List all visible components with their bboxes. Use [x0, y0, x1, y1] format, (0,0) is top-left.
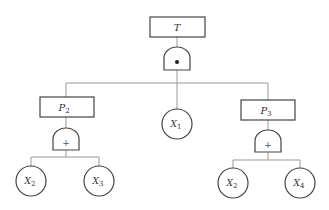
- fault-tree-diagram: T P2 + X2 X3 X1 P3 + X2 X4: [0, 0, 329, 210]
- or-gate-icon: +: [53, 128, 79, 150]
- top-event-T: T: [150, 17, 205, 37]
- intermediate-event-P3: P3: [241, 100, 295, 120]
- basic-event-X2-left: X2: [16, 166, 46, 196]
- svg-text:+: +: [62, 138, 70, 148]
- basic-event-X1: X1: [162, 109, 192, 139]
- basic-event-X3: X3: [84, 166, 114, 196]
- intermediate-event-P2: P2: [40, 97, 94, 117]
- or-gate-icon: +: [255, 130, 281, 152]
- and-gate-icon: [164, 47, 190, 70]
- basic-event-X2-right: X2: [218, 168, 248, 198]
- basic-event-X4: X4: [285, 168, 315, 198]
- svg-text:+: +: [264, 140, 272, 150]
